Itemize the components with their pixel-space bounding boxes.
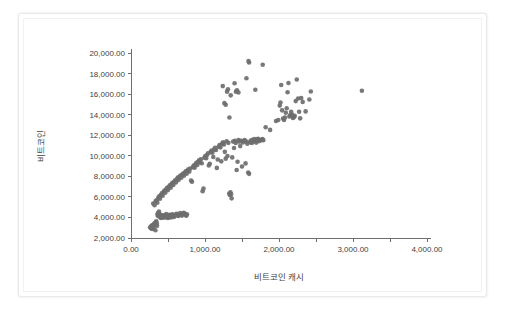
scatter-point bbox=[360, 89, 365, 94]
scatter-point bbox=[278, 100, 283, 105]
y-tick-label: 16,000.00 bbox=[89, 90, 125, 99]
scatter-point bbox=[228, 93, 233, 98]
scatter-point bbox=[309, 89, 314, 94]
x-tick-label: 0.00 bbox=[123, 245, 139, 254]
scatter-point bbox=[247, 172, 252, 177]
scatter-point bbox=[153, 228, 158, 233]
scatter-point bbox=[260, 62, 265, 67]
scatter-point bbox=[215, 166, 220, 171]
scatter-point bbox=[201, 186, 206, 191]
y-axis-title: 비트코인 bbox=[36, 130, 46, 162]
scatter-point bbox=[155, 224, 160, 229]
scatter-point bbox=[211, 155, 216, 160]
y-tick-label: 18,000.00 bbox=[89, 70, 125, 79]
scatter-point bbox=[303, 109, 308, 114]
x-tick-label: 1,000.00 bbox=[189, 245, 221, 254]
y-tick-label: 2,000.00 bbox=[94, 234, 126, 243]
y-tick-label: 6,000.00 bbox=[94, 193, 126, 202]
scatter-point bbox=[297, 109, 302, 114]
scatter-point bbox=[230, 155, 235, 160]
y-tick-label: 14,000.00 bbox=[89, 111, 125, 120]
scatter-point bbox=[155, 200, 160, 205]
y-tick-label: 12,000.00 bbox=[89, 131, 125, 140]
scatter-point bbox=[238, 144, 243, 149]
y-tick-label: 8,000.00 bbox=[94, 172, 126, 181]
data-points bbox=[148, 59, 364, 233]
x-axis: 0.001,000.002,000.003,000.004,000.00 bbox=[123, 238, 443, 254]
scatter-point bbox=[294, 77, 299, 82]
scatter-point bbox=[279, 83, 284, 88]
scatter-point bbox=[199, 161, 204, 166]
scatter-point bbox=[225, 154, 230, 159]
y-tick-label: 10,000.00 bbox=[89, 152, 125, 161]
scatter-point bbox=[219, 159, 224, 164]
scatter-point bbox=[229, 196, 234, 201]
scatter-point bbox=[223, 150, 228, 155]
y-tick-label: 20,000.00 bbox=[89, 49, 125, 58]
scatter-point bbox=[185, 212, 190, 217]
scatter-plot: 2,000.004,000.006,000.008,000.0010,000.0… bbox=[24, 19, 483, 293]
scatter-point bbox=[298, 116, 303, 121]
scatter-point bbox=[261, 138, 266, 143]
x-axis-title: 비트코인 캐시 bbox=[254, 272, 304, 282]
scatter-point bbox=[220, 84, 225, 89]
scatter-point bbox=[276, 118, 281, 123]
scatter-point bbox=[283, 115, 288, 120]
scatter-point bbox=[247, 60, 252, 65]
scatter-point bbox=[235, 159, 240, 164]
x-tick-label: 3,000.00 bbox=[337, 245, 369, 254]
scatter-point bbox=[223, 103, 228, 108]
scatter-point bbox=[207, 161, 212, 166]
scatter-point bbox=[292, 114, 297, 119]
scatter-point bbox=[232, 81, 237, 86]
chart-plot-container: 2,000.004,000.006,000.008,000.0010,000.0… bbox=[23, 18, 482, 292]
scatter-point bbox=[286, 81, 291, 86]
scatter-point bbox=[236, 90, 241, 95]
scatter-point bbox=[263, 125, 268, 130]
y-tick-label: 4,000.00 bbox=[94, 213, 126, 222]
x-tick-label: 4,000.00 bbox=[411, 245, 443, 254]
scatter-point bbox=[240, 164, 245, 169]
x-tick-label: 2,000.00 bbox=[263, 245, 295, 254]
scatter-point bbox=[226, 141, 231, 146]
scatter-point bbox=[244, 76, 249, 81]
scatter-point bbox=[285, 90, 290, 95]
y-axis: 2,000.004,000.006,000.008,000.0010,000.0… bbox=[89, 49, 131, 243]
scatter-point bbox=[232, 146, 237, 151]
scatter-point bbox=[307, 97, 312, 102]
scatter-point bbox=[243, 161, 248, 166]
scatter-point bbox=[190, 179, 195, 184]
scatter-point bbox=[253, 87, 258, 92]
scatter-point bbox=[229, 192, 234, 197]
chart-frame: 2,000.004,000.006,000.008,000.0010,000.0… bbox=[18, 13, 487, 297]
chart-screenshot: 2,000.004,000.006,000.008,000.0010,000.0… bbox=[0, 0, 505, 316]
scatter-point bbox=[268, 128, 273, 133]
scatter-point bbox=[284, 111, 289, 116]
scatter-point bbox=[234, 168, 239, 173]
scatter-point bbox=[226, 87, 231, 92]
scatter-point bbox=[227, 115, 232, 120]
scatter-point bbox=[300, 100, 305, 105]
scatter-point bbox=[284, 106, 289, 111]
